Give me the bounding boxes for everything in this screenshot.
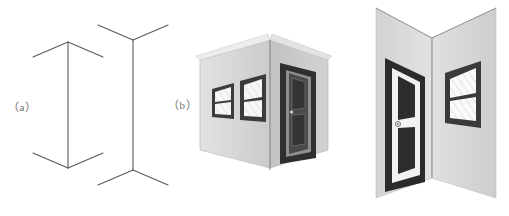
figure-canvas	[0, 0, 509, 216]
fin-top-left	[33, 42, 68, 57]
arrowheads-inward-figure	[33, 42, 103, 168]
door-right-wall-panel-top	[292, 78, 305, 110]
fin-bottom-left	[33, 153, 68, 168]
window-large-left	[240, 74, 266, 122]
window-small-left	[212, 83, 234, 119]
door-right-wall-panel-bottom	[292, 114, 305, 146]
window-right-wall-hatch-bottom	[450, 97, 476, 121]
tail-bottom-left	[98, 170, 133, 185]
illusion-figure: （a） （b）	[0, 0, 509, 216]
door-left-wall-knob-center-icon	[397, 123, 399, 125]
tail-top-left	[98, 25, 133, 40]
window-small-left-hatch-bottom	[215, 102, 231, 115]
tail-top-right	[133, 25, 168, 40]
arrowheads-outward-figure	[98, 25, 168, 185]
tail-bottom-right	[133, 170, 168, 185]
door-left-wall	[385, 58, 425, 192]
convex-corner-scene	[196, 34, 332, 170]
door-right-wall	[280, 63, 316, 164]
muller-lyer-group	[33, 25, 168, 185]
window-large-left-hatch-bottom	[244, 100, 262, 117]
door-right-wall-knob-icon	[290, 110, 293, 113]
fin-bottom-right	[68, 153, 103, 168]
door-left-wall-panel-bottom	[398, 127, 415, 174]
fin-top-right	[68, 42, 103, 57]
concave-corner-scene	[376, 8, 496, 198]
